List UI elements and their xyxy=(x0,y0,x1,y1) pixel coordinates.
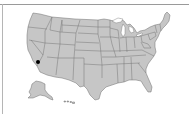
hawaii xyxy=(64,101,75,104)
contiguous-us xyxy=(27,12,170,100)
us-states-map xyxy=(0,0,189,114)
map-frame xyxy=(0,0,189,114)
alaska xyxy=(28,81,53,100)
location-marker[interactable] xyxy=(36,60,40,64)
